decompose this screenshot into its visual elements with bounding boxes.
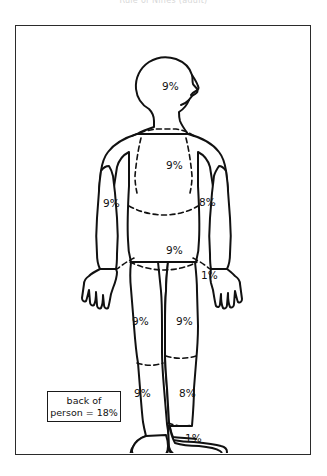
label-abdomen-percent: 9%: [166, 245, 183, 256]
label-right-arm-percent: 8%: [199, 197, 216, 208]
label-head-percent: 9%: [162, 81, 179, 92]
label-left-arm-percent: 9%: [103, 198, 120, 209]
left-hand-outline: [82, 269, 117, 308]
left-arm-outline: [96, 166, 118, 269]
label-right-lower-leg-percent: 8%: [179, 388, 196, 399]
label-right-thigh-percent: 9%: [176, 316, 193, 327]
back-of-person-legend: back of person = 18%: [47, 391, 121, 422]
right-arm-outline: [209, 166, 231, 269]
label-chest-percent: 9%: [166, 160, 183, 171]
head-outline: [136, 57, 198, 134]
left-foot-outline: [132, 435, 168, 453]
legend-line-2: person = 18%: [50, 407, 118, 419]
label-left-thigh-percent: 9%: [132, 316, 149, 327]
label-right-hand-percent: 1%: [201, 270, 218, 281]
legend-line-1: back of: [67, 395, 102, 407]
rule-of-nines-page: Rule of Nines (adult): [0, 0, 327, 476]
page-caption: Rule of Nines (adult): [0, 0, 327, 5]
label-right-foot-percent: 1%: [185, 433, 202, 444]
label-left-lower-leg-percent: 9%: [134, 388, 151, 399]
left-leg-outline: [130, 262, 169, 453]
diagram-frame: 9% 9% 9% 8% 9% 1% 9% 9% 9% 8% 1% back of…: [15, 25, 311, 455]
